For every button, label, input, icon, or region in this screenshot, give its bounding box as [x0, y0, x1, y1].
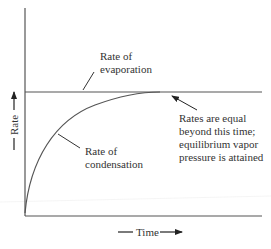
- equilibrium-note-line3: equilibrium vapor: [179, 138, 258, 150]
- scan-artifact: [0, 196, 271, 202]
- condensation-leader-line: [58, 134, 80, 148]
- x-axis-label-group: Time: [118, 226, 182, 238]
- equilibrium-note-line4: pressure is attained: [179, 151, 264, 163]
- condensation-label-line2: condensation: [85, 158, 144, 170]
- condensation-label-line1: Rate of: [85, 145, 117, 157]
- evaporation-label-line2: evaporation: [100, 63, 152, 75]
- equilibrium-note-line2: beyond this time;: [179, 125, 255, 137]
- y-axis-label: Rate: [8, 115, 20, 135]
- evaporation-leader-line: [83, 72, 94, 90]
- rate-time-diagram: Rate of evaporation Rate of condensation…: [0, 0, 271, 249]
- equilibrium-note-line1: Rates are equal: [179, 112, 246, 124]
- x-axis-label: Time: [136, 226, 159, 238]
- y-axis-label-group: Rate: [8, 92, 20, 150]
- equilibrium-arrow: [172, 96, 197, 110]
- evaporation-label-line1: Rate of: [100, 50, 132, 62]
